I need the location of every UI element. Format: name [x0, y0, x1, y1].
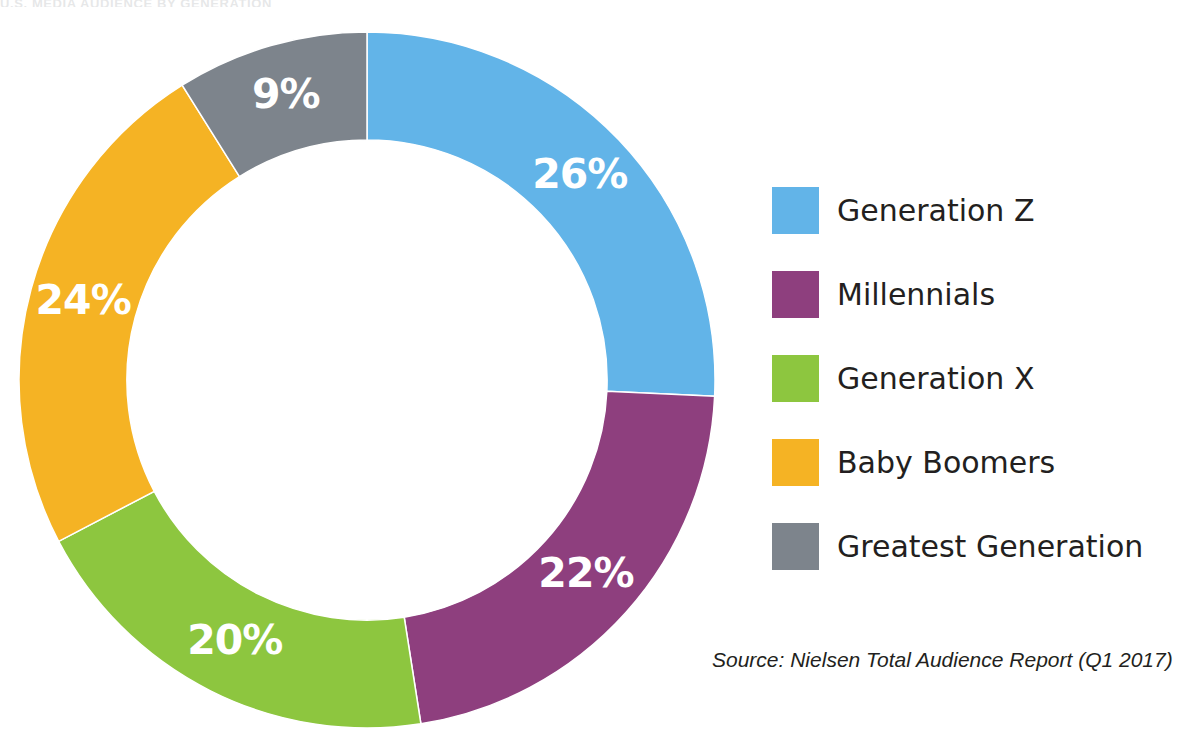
- donut-chart: 26%22%20%24%9%: [19, 32, 715, 728]
- legend-swatch-icon: [772, 271, 819, 318]
- legend-item[interactable]: Baby Boomers: [772, 420, 1172, 504]
- legend-swatch-icon: [772, 187, 819, 234]
- donut-chart-svg: 26%22%20%24%9%: [19, 32, 715, 728]
- legend-item-label: Generation X: [837, 361, 1034, 396]
- clipped-title-remnant: U.S. MEDIA AUDIENCE BY GENERATION: [0, 0, 1189, 7]
- legend-item-label: Millennials: [837, 277, 995, 312]
- donut-slice-group: [19, 32, 715, 728]
- slice-data-label: 24%: [36, 276, 131, 324]
- legend-swatch-icon: [772, 439, 819, 486]
- legend-item[interactable]: Millennials: [772, 252, 1172, 336]
- source-note: Source: Nielsen Total Audience Report (Q…: [712, 648, 1173, 672]
- legend-item[interactable]: Greatest Generation: [772, 504, 1172, 588]
- legend-item-label: Greatest Generation: [837, 529, 1143, 564]
- legend-swatch-icon: [772, 523, 819, 570]
- slice-data-label: 20%: [187, 616, 282, 664]
- donut-slice: [367, 32, 715, 396]
- legend-item[interactable]: Generation Z: [772, 168, 1172, 252]
- legend-item[interactable]: Generation X: [772, 336, 1172, 420]
- slice-data-label: 26%: [532, 150, 627, 198]
- slice-data-label: 22%: [538, 549, 633, 597]
- legend: Generation ZMillennialsGeneration XBaby …: [772, 168, 1172, 588]
- legend-swatch-icon: [772, 355, 819, 402]
- donut-chart-figure: U.S. MEDIA AUDIENCE BY GENERATION 26%22%…: [0, 0, 1189, 745]
- legend-item-label: Baby Boomers: [837, 445, 1055, 480]
- legend-item-label: Generation Z: [837, 193, 1034, 228]
- donut-slice: [59, 491, 421, 728]
- slice-data-label: 9%: [252, 70, 320, 118]
